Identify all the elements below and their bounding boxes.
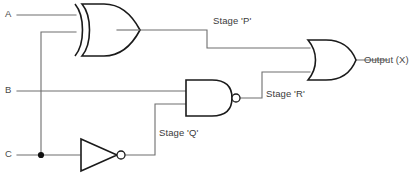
output-label-x: Output (X) [364, 55, 409, 65]
or-gate [308, 40, 356, 80]
nand-gate-body [186, 80, 232, 116]
input-label-a: A [5, 9, 11, 19]
input-label-b: B [5, 85, 11, 95]
not-gate [81, 139, 125, 171]
logic-circuit-diagram: A B C Stage 'P' Stage 'Q' Stage 'R' Outp… [0, 0, 419, 174]
stage-q-label: Stage 'Q' [159, 128, 198, 138]
stage-p-label: Stage 'P' [213, 16, 251, 26]
not-gate-triangle [81, 139, 117, 171]
wire-c-branch-to-xor [41, 32, 76, 155]
nand-gate-bubble-icon [232, 94, 240, 102]
nand-gate [186, 80, 240, 116]
stage-r-label: Stage 'R' [266, 89, 305, 99]
not-gate-bubble-icon [117, 151, 125, 159]
or-gate-body [308, 40, 356, 80]
junction-dot-c [38, 152, 44, 158]
circuit-svg [0, 0, 419, 174]
wire-stage-p [117, 30, 310, 48]
xor-gate [75, 4, 140, 56]
xor-gate-back-arc [75, 4, 83, 56]
input-label-c: C [5, 149, 12, 159]
